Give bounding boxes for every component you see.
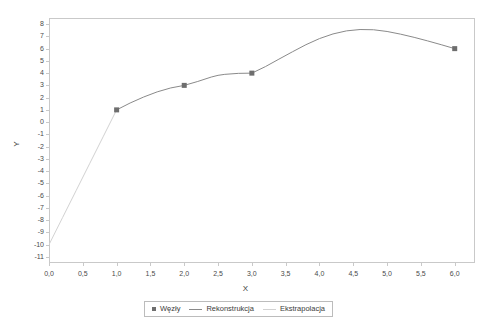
y-tick-mark [46, 232, 49, 233]
y-tick-mark [46, 220, 49, 221]
x-tick-mark [353, 263, 354, 266]
y-tick-label: 3 [22, 81, 44, 88]
y-tick-mark [46, 147, 49, 148]
y-tick-mark [46, 110, 49, 111]
knot-markers-group [114, 46, 457, 112]
chart-legend: WęzłyRekonstrukcjaEkstrapolacja [144, 301, 333, 317]
x-tick-mark [49, 263, 50, 266]
legend-entry: Rekonstrukcja [189, 305, 254, 313]
y-tick-mark [46, 196, 49, 197]
chart-figure: 876543210-1-2-3-4-5-6-7-8-9-10-11 0,00,5… [0, 0, 491, 334]
y-tick-label: -3 [22, 155, 44, 162]
legend-label: Węzły [160, 305, 180, 313]
x-tick-mark [117, 263, 118, 266]
y-tick-mark [46, 36, 49, 37]
legend-entry: Węzły [152, 305, 180, 313]
knot-marker [249, 71, 254, 76]
series-group [49, 30, 457, 245]
x-tick-mark [83, 263, 84, 266]
y-axis-title: Y [13, 141, 21, 146]
x-tick-label: 1,5 [135, 270, 165, 277]
x-tick-label: 3,0 [237, 270, 267, 277]
x-tick-mark [421, 263, 422, 266]
x-tick-mark [319, 263, 320, 266]
x-tick-label: 4,5 [338, 270, 368, 277]
y-tick-label: -1 [22, 130, 44, 137]
y-tick-label: -4 [22, 167, 44, 174]
reconstruction-line [117, 30, 455, 110]
x-tick-label: 1,0 [102, 270, 132, 277]
y-tick-label: -6 [22, 192, 44, 199]
x-tick-label: 3,5 [271, 270, 301, 277]
knot-marker [182, 83, 187, 88]
y-tick-label: 7 [22, 32, 44, 39]
x-tick-mark [218, 263, 219, 266]
x-tick-label: 0,0 [34, 270, 64, 277]
x-tick-label: 5,0 [372, 270, 402, 277]
y-tick-label: 8 [22, 20, 44, 27]
x-tick-mark [286, 263, 287, 266]
legend-label: Rekonstrukcja [206, 305, 254, 313]
y-tick-mark [46, 257, 49, 258]
legend-label: Ekstrapolacja [280, 305, 325, 313]
x-tick-label: 2,5 [203, 270, 233, 277]
x-tick-mark [150, 263, 151, 266]
y-tick-mark [46, 24, 49, 25]
y-tick-mark [46, 73, 49, 74]
y-tick-label: 5 [22, 57, 44, 64]
x-tick-mark [455, 263, 456, 266]
x-tick-label: 5,5 [406, 270, 436, 277]
y-tick-label: 6 [22, 45, 44, 52]
x-tick-label: 6,0 [440, 270, 470, 277]
x-tick-label: 2,0 [169, 270, 199, 277]
y-tick-label: 2 [22, 94, 44, 101]
y-tick-mark [46, 208, 49, 209]
legend-line-swatch-light [263, 309, 276, 310]
x-tick-mark [252, 263, 253, 266]
y-tick-label: -5 [22, 179, 44, 186]
y-tick-mark [46, 245, 49, 246]
x-axis-title: X [0, 285, 491, 293]
y-tick-label: 4 [22, 69, 44, 76]
y-tick-mark [46, 183, 49, 184]
y-tick-mark [46, 122, 49, 123]
y-tick-mark [46, 98, 49, 99]
x-tick-mark [184, 263, 185, 266]
y-tick-label: 0 [22, 118, 44, 125]
y-tick-mark [46, 61, 49, 62]
knot-marker [452, 46, 457, 51]
extrapolation-line [49, 110, 117, 245]
y-tick-label: -11 [22, 253, 44, 260]
y-tick-mark [46, 171, 49, 172]
y-tick-label: -2 [22, 143, 44, 150]
x-tick-mark [387, 263, 388, 266]
legend-line-swatch [189, 309, 202, 310]
y-tick-label: -10 [22, 241, 44, 248]
y-tick-label: 1 [22, 106, 44, 113]
y-tick-mark [46, 49, 49, 50]
y-tick-mark [46, 85, 49, 86]
x-tick-label: 0,5 [68, 270, 98, 277]
y-tick-label: -8 [22, 216, 44, 223]
y-tick-mark [46, 134, 49, 135]
legend-marker-swatch [152, 307, 156, 311]
y-tick-label: -9 [22, 228, 44, 235]
legend-entry: Ekstrapolacja [263, 305, 325, 313]
knot-marker [114, 107, 119, 112]
y-tick-mark [46, 159, 49, 160]
y-tick-label: -7 [22, 204, 44, 211]
x-tick-label: 4,0 [304, 270, 334, 277]
plot-canvas [49, 18, 475, 263]
